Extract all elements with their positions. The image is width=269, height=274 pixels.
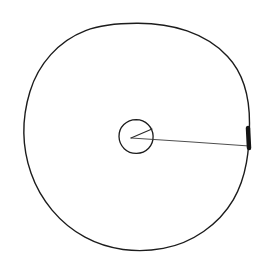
radius-line-group	[131, 138, 249, 146]
diagram-canvas	[0, 0, 269, 274]
arc-tick-group	[248, 128, 249, 148]
inner-circle	[119, 120, 153, 154]
angle-upper-ray	[131, 129, 152, 138]
radius-line	[131, 138, 249, 146]
outer-circle	[24, 23, 249, 250]
central-angle-group	[131, 129, 152, 138]
outer-circle-group	[24, 23, 249, 250]
circle-diagram-svg	[0, 0, 269, 274]
inner-circle-group	[119, 120, 153, 154]
arc-tick-mark	[248, 128, 249, 148]
